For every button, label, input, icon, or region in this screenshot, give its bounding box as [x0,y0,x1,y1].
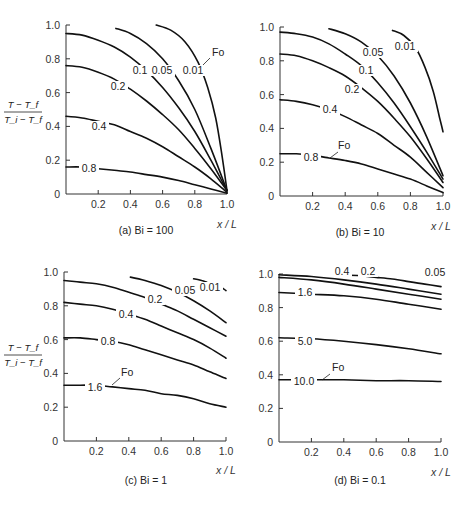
fo-value-label: 0.2 [111,80,126,92]
fo-value-label: 0.1 [133,64,148,76]
panel-c-bi-1: 00.20.40.60.81.00.20.40.60.81.0x / L0.05… [4,266,236,486]
y-tick-label: 0.2 [43,401,58,413]
y-tick-label: 0.8 [43,300,58,312]
x-tick-label: 0.2 [304,446,319,458]
fo-value-label: 0.01 [200,281,221,293]
x-tick-label: 0.2 [91,198,106,210]
fo-curve [116,28,227,190]
fo-legend-label: Fo [121,366,133,378]
x-axis-label: x / L [216,218,237,230]
x-tick-label: 0.8 [401,446,416,458]
y-axis-label: T − T_fT_i − T_f [4,342,43,368]
y-tick-label: 0.4 [259,122,274,134]
y-tick-label: 0.8 [45,53,60,65]
y-tick-label: 0.6 [259,89,274,101]
panel-b-bi-10: 00.20.40.60.81.00.20.40.60.81.0x / L0.05… [259,21,451,238]
x-tick-label: 1.0 [219,445,234,457]
fo-value-label: 10.0 [294,375,315,387]
fo-leader-line [330,152,338,158]
axis-lines [279,274,441,442]
svg-text:T − T_f: T − T_f [8,99,40,110]
fo-legend-label: Fo [212,46,224,58]
x-tick-label: 0.8 [186,445,201,457]
x-tick-label: 1.0 [220,198,235,210]
x-axis-label: x / L [215,464,236,476]
y-tick-label: 1.0 [45,19,60,31]
fo-value-label: 0.4 [323,103,338,115]
y-tick-label: 0.4 [258,369,273,381]
svg-text:T_i − T_f: T_i − T_f [4,114,43,125]
x-axis-label: x / L [430,220,451,232]
fo-value-label: 0.2 [361,265,376,277]
fo-value-label: 0.2 [148,293,163,305]
x-tick-label: 0.2 [305,200,320,212]
y-tick-label: 0 [268,190,274,202]
fo-value-label: 1.6 [88,381,103,393]
svg-text:T − T_f: T − T_f [8,342,40,353]
y-tick-label: 1.0 [258,268,273,280]
panel-caption: (d) Bi = 0.1 [334,474,386,486]
fo-value-label: 0.01 [183,64,204,76]
x-tick-label: 0.8 [403,200,418,212]
y-tick-label: 0.4 [43,367,58,379]
fo-value-label: 0.4 [92,120,107,132]
fo-leader-line [112,378,120,385]
y-tick-label: 0 [54,188,60,200]
x-tick-label: 0.4 [123,198,138,210]
y-tick-label: 0.8 [258,302,273,314]
x-tick-label: 0.6 [154,445,169,457]
fo-value-label: 0.05 [425,266,446,278]
fo-curve [280,100,443,188]
fo-value-label: 0.4 [335,265,350,277]
fo-legend-label: Fo [332,361,344,373]
panel-caption: (a) Bi = 100 [119,224,174,236]
x-tick-label: 0.6 [155,198,170,210]
y-axis-label: T − T_fT_i − T_f [4,99,43,125]
x-tick-label: 0.8 [187,198,202,210]
fo-value-label: 0.8 [304,151,319,163]
x-tick-label: 0.4 [121,445,136,457]
panel-caption: (b) Bi = 10 [336,226,385,238]
fo-value-label: 0.05 [152,64,173,76]
x-axis-label: x / L [430,466,451,478]
fo-value-label: 0.8 [82,162,97,174]
x-tick-label: 0.4 [338,200,353,212]
fo-value-label: 0.05 [363,46,384,58]
fo-value-label: 0.05 [175,284,196,296]
y-tick-label: 0 [52,435,58,447]
panel-caption: (c) Bi = 1 [125,474,167,486]
y-tick-label: 0.6 [258,335,273,347]
x-tick-label: 0.2 [89,445,104,457]
fo-value-label: 0.4 [119,308,134,320]
y-tick-label: 0.2 [258,402,273,414]
y-tick-label: 1.0 [43,266,58,278]
panel-a-bi-100: 00.20.40.60.81.00.20.40.60.81.0x / L0.10… [4,19,237,236]
x-tick-label: 1.0 [434,446,449,458]
fo-value-label: 0.1 [359,64,374,76]
panel-d-bi-0-1: 00.20.40.60.81.00.20.40.60.81.0x / L0.40… [258,265,451,486]
x-tick-label: 1.0 [436,200,451,212]
y-tick-label: 0.8 [259,55,274,67]
svg-text:T_i − T_f: T_i − T_f [4,357,43,368]
y-tick-label: 1.0 [259,21,274,33]
fo-value-label: 5.0 [298,335,313,347]
fo-value-label: 0.8 [101,335,116,347]
y-tick-label: 0.6 [43,334,58,346]
y-tick-label: 0 [267,436,273,448]
fo-leader-line [203,58,210,65]
y-tick-label: 0.2 [259,156,274,168]
fo-legend-label: Fo [338,139,350,151]
fo-value-label: 1.6 [298,286,313,298]
fo-value-label: 0.2 [345,83,360,95]
fo-value-label: 0.01 [395,40,416,52]
y-tick-label: 0.6 [45,87,60,99]
figure-canvas: 00.20.40.60.81.00.20.40.60.81.0x / L0.10… [0,0,467,508]
y-tick-label: 0.4 [45,120,60,132]
x-tick-label: 0.4 [336,446,351,458]
y-tick-label: 0.2 [45,154,60,166]
x-tick-label: 0.6 [370,200,385,212]
x-tick-label: 0.6 [369,446,384,458]
